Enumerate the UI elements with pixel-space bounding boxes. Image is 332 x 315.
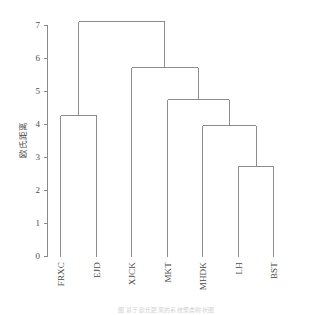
leaf-label-mhdk: MHDK <box>198 262 208 291</box>
figure-caption: 图 基于欧氏距离的系统聚类树状图 <box>0 305 332 314</box>
y-tick-label-0: 0 <box>36 251 41 261</box>
leaf-label-mkt: MKT <box>163 262 173 283</box>
leaf-label-bst: BST <box>269 262 279 279</box>
leaf-label-frxc: FRXC <box>56 262 66 286</box>
dendrogram-plot: 0 1 2 3 4 5 6 7 欧氏距离 <box>0 0 332 315</box>
leaf-label-ejd: EJD <box>92 262 102 278</box>
y-tick-label-4: 4 <box>36 119 41 129</box>
x-axis-leaf-labels: FRXC EJD XJCK MKT MHDK LH BST <box>56 262 279 291</box>
y-axis-ticks <box>44 26 48 257</box>
y-tick-label-5: 5 <box>36 86 41 96</box>
leaf-label-xjck: XJCK <box>127 262 137 286</box>
y-tick-label-7: 7 <box>36 20 41 30</box>
y-tick-label-2: 2 <box>36 185 41 195</box>
dendrogram-tree <box>61 22 274 257</box>
y-axis: 0 1 2 3 4 5 6 7 欧氏距离 <box>18 20 48 261</box>
dendrogram-figure: 0 1 2 3 4 5 6 7 欧氏距离 <box>0 0 332 315</box>
y-axis-label: 欧氏距离 <box>18 122 28 158</box>
leaf-label-lh: LH <box>234 262 244 275</box>
y-axis-tick-labels: 0 1 2 3 4 5 6 7 <box>36 20 41 261</box>
y-tick-label-3: 3 <box>36 152 41 162</box>
y-tick-label-6: 6 <box>36 53 41 63</box>
y-tick-label-1: 1 <box>36 218 41 228</box>
